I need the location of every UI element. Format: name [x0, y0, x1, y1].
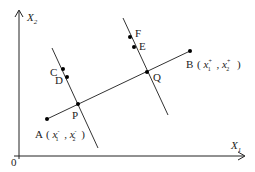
label-q: Q: [153, 71, 161, 83]
y-axis-label: X2: [26, 11, 38, 26]
label-d: D: [55, 74, 63, 86]
label-f: F: [135, 27, 141, 39]
x-axis-label: X1: [230, 139, 241, 154]
label-p: P: [72, 109, 78, 121]
point-p: [76, 102, 80, 106]
diagram-canvas: X2 X1 0 C D F E P Q A ( x-1 , x-2 ) B ( …: [0, 0, 255, 172]
point-d: [65, 75, 69, 79]
point-f: [128, 35, 132, 39]
point-c: [61, 67, 65, 71]
point-e: [132, 45, 136, 49]
origin-label: 0: [11, 156, 17, 168]
point-q: [145, 70, 149, 74]
label-b: B ( x+1 , x+2 ): [186, 58, 241, 73]
label-e: E: [139, 40, 146, 52]
points: [45, 35, 192, 121]
point-a: [45, 117, 49, 121]
line-feq: [123, 18, 168, 115]
segment-ab: [47, 51, 190, 119]
point-b: [188, 49, 192, 53]
label-a: A ( x-1 , x-2 ): [35, 128, 85, 143]
